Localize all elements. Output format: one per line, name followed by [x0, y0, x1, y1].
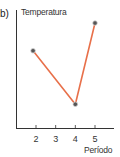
data-point — [31, 48, 36, 53]
x-tick-label: 2 — [33, 134, 38, 144]
x-tick-label: 4 — [73, 134, 78, 144]
x-ticks: 2345 — [33, 125, 97, 144]
x-tick-label: 5 — [93, 134, 98, 144]
line-chart: 2345 — [0, 0, 120, 157]
data-points — [31, 21, 98, 107]
series-line — [33, 23, 95, 104]
data-point — [93, 21, 98, 26]
data-point — [73, 102, 78, 107]
x-tick-label: 3 — [53, 134, 58, 144]
